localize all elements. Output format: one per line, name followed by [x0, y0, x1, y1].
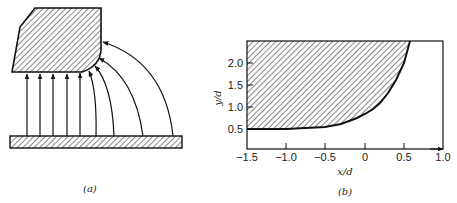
x-tick-label: 1.0	[435, 151, 450, 163]
y-tick-label: 1.5	[228, 79, 243, 91]
panel-b: −1.5 −1.0 −0.5 0 0.5 1.0 0.5 1.0 1.5 2.0…	[212, 41, 451, 197]
y-tick-label: 0.5	[228, 123, 243, 135]
x-tick-label: −1.5	[236, 151, 258, 163]
panel-a-caption: (a)	[83, 183, 97, 194]
x-tick-label: 0.5	[396, 151, 411, 163]
panel-a: (a)	[10, 8, 182, 194]
x-tick-label: −0.5	[314, 151, 336, 163]
x-ticks	[286, 143, 404, 149]
x-axis-label: x/d	[337, 166, 352, 177]
x-tick-label: 0	[362, 151, 368, 163]
figure-canvas: (a) −1.5 −1.0 −0.5 0 0.5	[0, 0, 457, 203]
y-tick-label: 1.0	[228, 101, 243, 113]
field-line-arrow-icon	[95, 66, 114, 136]
electrode-region	[247, 41, 410, 129]
field-line-arrow-icon	[89, 71, 96, 136]
panel-b-caption: (b)	[338, 186, 352, 197]
x-tick-labels: −1.5 −1.0 −0.5 0 0.5 1.0	[236, 151, 451, 163]
y-tick-labels: 0.5 1.0 1.5 2.0	[228, 57, 243, 135]
y-axis-label: y/d	[212, 90, 223, 106]
x-tick-label: −1.0	[275, 151, 297, 163]
electrode-block	[12, 8, 101, 72]
field-line-arrow-icon	[99, 58, 143, 136]
y-tick-label: 2.0	[228, 57, 243, 69]
ground-plate	[10, 136, 182, 148]
